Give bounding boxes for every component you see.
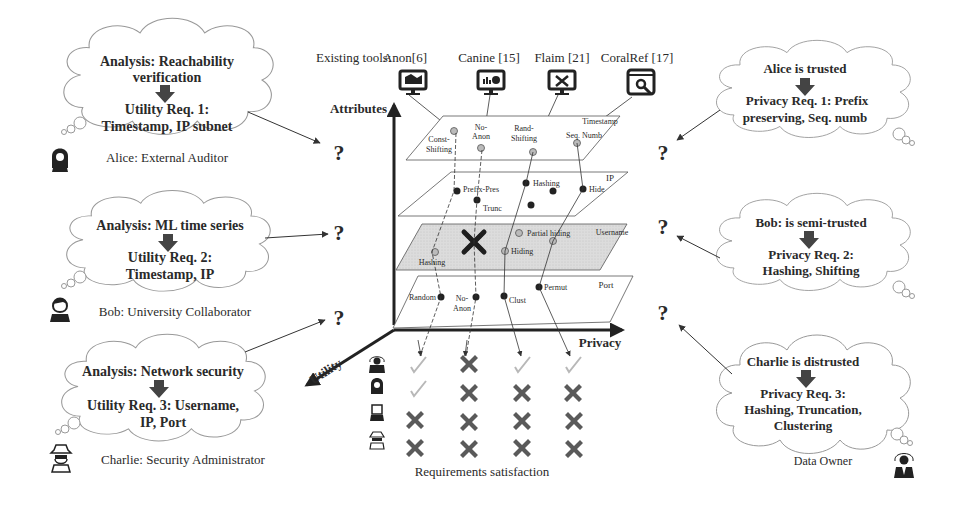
charlie-utility-req-2: IP, Port [140,415,186,430]
data-owner-avatar-icon [894,454,914,479]
owner-bob-privacy-req-2: Hashing, Shifting [763,263,860,278]
owner-charlie-trust: Charlie is distrusted [747,354,860,369]
svg-text:Anon: Anon [453,304,471,313]
owner-alice-privacy-req-2: preserving, Seq. numb [743,110,868,125]
bob-avatar-icon [50,299,70,323]
unknown-mark: ? [658,300,669,325]
svg-text:No-: No- [475,123,488,132]
cross-icon [565,412,583,430]
unknown-mark: ? [334,305,345,330]
alice-avatar-icon [52,149,68,173]
cross-icon [460,440,478,458]
cross-icon [513,439,531,457]
window-wrench-icon [628,70,654,94]
owner-alice-trust: Alice is trusted [763,61,847,76]
cross-icon [513,412,531,430]
tool-name-anon: Anon[6] [383,50,427,65]
svg-text:Shifting: Shifting [511,134,537,143]
unknown-mark: ? [658,140,669,165]
svg-text:Prefix-Pres: Prefix-Pres [463,185,499,194]
charlie-utility-req: Utility Req. 3: Username, [87,398,239,413]
utility-axis-label: Utility [307,355,345,387]
diagram-canvas: Analysis: Reachability verification Util… [0,0,962,513]
charlie-avatar-icon [51,445,71,472]
owner-charlie-privacy-req-2: Hashing, Truncation, [744,402,862,417]
monitor-gear-icon [400,71,426,95]
plane-timestamp: Timestamp Const- Shifting No- Anon Rand-… [406,116,620,160]
cross-icon [565,440,583,458]
unknown-mark: ? [658,214,669,239]
svg-text:Rand-: Rand- [514,124,534,133]
owner-bob-trust: Bob: is semi-trusted [755,215,867,230]
check-icon [411,357,426,372]
charlie-analysis: Analysis: Network security [82,364,244,379]
requirements-matrix [369,355,583,458]
cross-icon [513,384,531,402]
check-icon [515,357,530,372]
svg-text:Timestamp: Timestamp [582,117,618,126]
bob-caption: Bob: University Collaborator [99,304,252,319]
tool-name-flaim: Flaim [21] [534,50,589,65]
svg-text:Anon: Anon [472,132,490,141]
bob-row-icon [370,405,384,421]
charlie-row-icon [370,432,384,449]
cross-icon [564,384,582,402]
plane-ip: IP Prefix-Pres Trunc Hashing Hide [398,172,628,216]
svg-text:Port: Port [598,280,614,290]
charlie-caption: Charlie: Security Administrator [101,452,266,467]
tool-name-canine: Canine [15] [458,50,520,65]
svg-text:Random: Random [409,293,437,302]
svg-text:Hashing: Hashing [533,179,560,188]
plane-username: Username Hashing Partial hiding Hiding [396,224,629,270]
owner-charlie-privacy-req: Privacy Req. 3: [760,386,846,401]
owner-bob-privacy-req: Privacy Req. 2: [768,247,854,262]
alice-utility-req: Utility Req. 1: [125,102,209,117]
matrix-caption: Requirements satisfaction [415,464,550,479]
cross-icon [406,439,424,457]
svg-text:IP: IP [606,173,614,183]
alice-utility-req-2: Timestamp, IP subnet [102,119,233,134]
svg-text:Clust: Clust [509,296,527,305]
alice-row-icon [371,378,383,394]
check-icon [411,381,426,396]
owner-alice-privacy-req: Privacy Req. 1: Prefix [746,93,869,108]
attributes-axis-label: Attributes [330,101,387,116]
alice-caption: Alice: External Auditor [106,150,229,165]
bob-analysis: Analysis: ML time series [96,218,244,233]
svg-text:Hashing: Hashing [419,258,446,267]
cross-icon [460,413,478,431]
alice-analysis: Analysis: Reachability [100,54,234,69]
svg-text:Hide: Hide [589,185,605,194]
tool-name-coralref: CoralRef [17] [601,50,674,65]
svg-text:Trunc: Trunc [483,204,502,213]
privacy-axis-label: Privacy [579,335,622,350]
alice-analysis-2: verification [133,70,202,85]
unknown-mark: ? [334,140,345,165]
check-icon [566,357,581,372]
svg-text:Permut: Permut [544,283,568,292]
cross-icon [460,384,478,402]
data-owner-caption: Data Owner [794,454,852,468]
monitor-tools-icon [549,71,575,95]
plane-port: Port Random No- Anon Clust Permut [393,276,633,328]
cross-icon [406,411,424,429]
owner-charlie-privacy-req-3: Clustering [774,418,833,433]
cross-icon [460,355,478,373]
svg-text:Partial hiding: Partial hiding [527,229,570,238]
monitor-chart-icon [478,71,504,95]
svg-text:Shifting: Shifting [426,145,452,154]
bob-utility-req: Utility Req. 2: [128,250,212,265]
svg-text:Const-: Const- [428,135,450,144]
svg-text:Username: Username [596,228,629,237]
bob-utility-req-2: Timestamp, IP [126,267,215,282]
svg-text:Hiding: Hiding [511,247,533,256]
svg-text:Seq. Numb: Seq. Numb [566,131,602,140]
svg-text:No-: No- [456,294,469,303]
data-owner-row-icon [369,357,385,373]
unknown-mark: ? [334,220,345,245]
tools-label: Existing tools: [316,50,391,65]
